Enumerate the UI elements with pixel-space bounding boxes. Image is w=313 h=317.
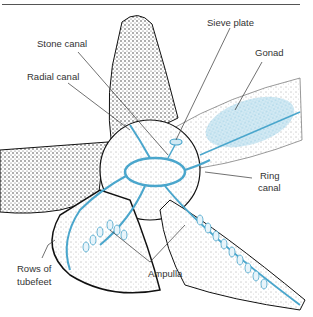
label-rows-tubefeet-1: Rows of <box>17 263 51 274</box>
leader-ring-canal <box>205 172 252 178</box>
label-sieve-plate: Sieve plate <box>207 17 254 28</box>
label-rows-tubefeet-2: tubefeet <box>17 276 51 287</box>
label-stone-canal: Stone canal <box>37 38 87 49</box>
label-radial-canal: Radial canal <box>27 71 79 82</box>
label-ampulla: Ampulla <box>148 268 182 279</box>
label-ring-canal-1: Ring <box>260 170 280 181</box>
label-gonad: Gonad <box>255 47 284 58</box>
label-ring-canal-2: canal <box>258 182 281 193</box>
